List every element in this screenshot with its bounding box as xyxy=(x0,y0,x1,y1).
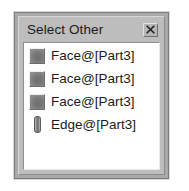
list-item-label: Face@[Part3] xyxy=(51,72,135,86)
screenshot-canvas: Select Other Face@[Part3] xyxy=(0,0,189,191)
list-item[interactable]: Face@[Part3] xyxy=(24,67,159,90)
list-item-label: Face@[Part3] xyxy=(51,49,135,63)
face-icon xyxy=(28,70,46,88)
close-icon xyxy=(146,25,155,34)
list-item-label: Face@[Part3] xyxy=(51,95,135,109)
entity-list[interactable]: Face@[Part3] Face@[Part3] Face@[Part3] xyxy=(23,42,160,170)
edge-icon xyxy=(28,116,46,134)
list-item[interactable]: Edge@[Part3] xyxy=(24,113,159,136)
list-item-label: Edge@[Part3] xyxy=(51,118,136,132)
dialog-titlebar[interactable]: Select Other xyxy=(19,17,164,42)
select-other-dialog: Select Other Face@[Part3] xyxy=(14,12,169,179)
close-button[interactable] xyxy=(143,23,158,37)
list-item[interactable]: Face@[Part3] xyxy=(24,90,159,113)
dialog-title: Select Other xyxy=(27,23,143,37)
dialog-inner-frame: Select Other Face@[Part3] xyxy=(18,16,165,175)
face-icon xyxy=(28,47,46,65)
list-item[interactable]: Face@[Part3] xyxy=(24,44,159,67)
face-icon xyxy=(28,93,46,111)
